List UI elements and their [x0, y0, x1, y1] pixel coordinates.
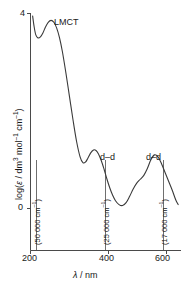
y-axis-title-sup-cm: –1 [12, 111, 19, 118]
spectrum-chart: 4 0 200 400 600 log(ε / dm3 mol–1 cm–1) … [0, 0, 187, 289]
y-axis-tick-label-4: 4 [20, 9, 25, 18]
y-axis-title-prefix: log( [14, 185, 24, 200]
wn-17000-close: ) [160, 199, 169, 202]
y-axis-title-suffix: ) [14, 108, 24, 111]
y-axis-title: log(ε / dm3 mol–1 cm–1) [13, 108, 24, 200]
wn-25000-open: (25 000 cm [102, 207, 111, 245]
x-axis-title: λ / nm [73, 271, 97, 280]
wn-50000-close: ) [33, 199, 42, 202]
annotation-wavenumber-17000: (17 000 cm–1) [159, 199, 168, 245]
y-axis-title-epsilon: ε [14, 181, 24, 185]
y-axis-tick-label-0: 0 [18, 203, 23, 212]
wn-25000-close: ) [102, 199, 111, 202]
y-axis-title-mol: mol [14, 140, 24, 157]
y-axis-ticks [27, 14, 31, 209]
y-axis-title-middle: / dm [14, 161, 24, 181]
y-axis-title-sup3: 3 [12, 157, 19, 161]
wn-50000-sup: –1 [31, 201, 37, 207]
chart-canvas [0, 0, 187, 289]
annotation-wavenumber-25000: (25 000 cm–1) [101, 199, 110, 245]
x-axis-title-unit: / nm [77, 270, 97, 280]
annotation-lmct: LMCT [54, 18, 79, 27]
annotation-dd-band-1: d–d [100, 153, 115, 162]
wn-25000-sup: –1 [100, 201, 106, 207]
x-axis-tick-label-400: 400 [99, 254, 114, 263]
wn-17000-sup: –1 [158, 201, 164, 207]
y-axis-title-sup-mol: –1 [12, 133, 19, 140]
annotation-dd-band-2: d–d [146, 153, 161, 162]
x-axis-tick-label-200: 200 [22, 254, 37, 263]
y-axis-title-cm: cm [14, 119, 24, 134]
wn-17000-open: (17 000 cm [160, 207, 169, 245]
annotation-wavenumber-50000: (50 000 cm–1) [32, 199, 41, 245]
x-axis-tick-label-600: 600 [155, 254, 170, 263]
wn-50000-open: (50 000 cm [33, 207, 42, 245]
